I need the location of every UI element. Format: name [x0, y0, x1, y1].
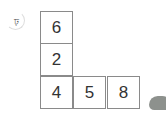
grid-cell: 4 — [40, 76, 73, 109]
grid-cell: 6 — [40, 11, 73, 44]
problem-number: ঢ় — [8, 14, 24, 30]
grid-cell: 2 — [40, 43, 73, 76]
grid-cell: 8 — [107, 76, 140, 109]
grid-cell: 5 — [73, 76, 106, 109]
cloud-decoration-icon — [149, 96, 166, 110]
